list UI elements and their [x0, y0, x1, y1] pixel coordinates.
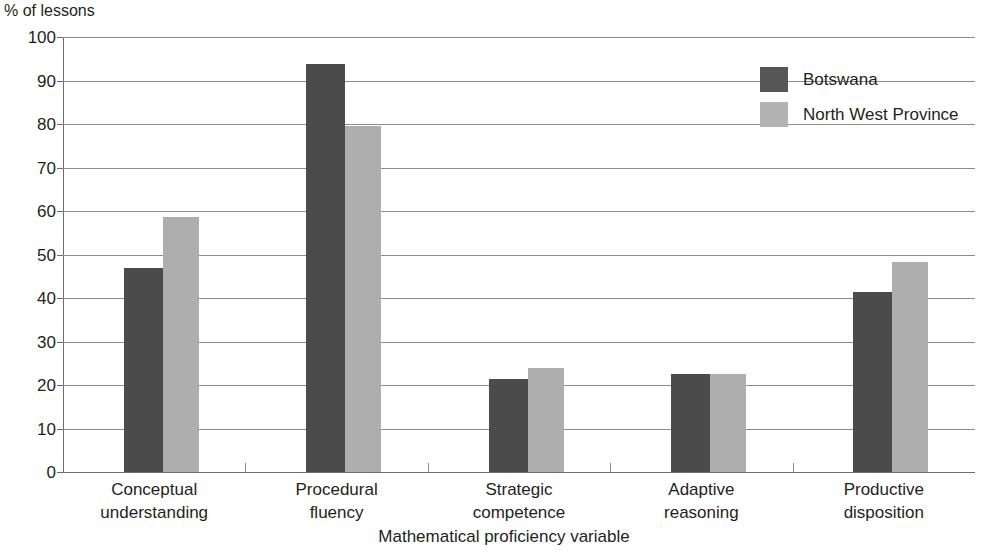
y-axis-tick-label: 60: [37, 203, 56, 220]
bar: [528, 368, 564, 472]
y-axis-tick: [57, 342, 63, 343]
x-axis-category-label: Strategiccompetence: [428, 478, 610, 524]
x-axis-category-label-line: fluency: [245, 501, 427, 524]
x-axis-category-label: Adaptivereasoning: [610, 478, 792, 524]
bar: [489, 379, 528, 472]
bar: [306, 64, 345, 472]
legend-item-label: North West Province: [803, 105, 959, 124]
x-axis-title: Mathematical proficiency variable: [0, 527, 984, 547]
bar: [124, 268, 163, 472]
bar: [892, 262, 928, 472]
legend-item: North West Province: [760, 97, 959, 132]
legend-color-swatch: [760, 102, 788, 127]
y-axis-tick: [57, 124, 63, 125]
y-axis-tick: [57, 211, 63, 212]
y-axis-tick-label: 0: [47, 464, 56, 481]
category-separator-tick: [428, 463, 429, 472]
category-separator-tick: [245, 463, 246, 472]
bar-chart: % of lessons 1009080706050403020100 Conc…: [0, 0, 984, 558]
gridline: [63, 342, 975, 343]
y-axis-tick: [57, 429, 63, 430]
y-axis-tick-label: 90: [37, 73, 56, 90]
x-axis-category-label-line: competence: [428, 501, 610, 524]
x-axis-category-label-line: Adaptive: [610, 478, 792, 501]
y-axis-tick: [57, 168, 63, 169]
x-axis-category-label: Conceptualunderstanding: [63, 478, 245, 524]
x-axis-category-label-line: Conceptual: [63, 478, 245, 501]
y-axis-tick-label: 80: [37, 116, 56, 133]
bar: [853, 292, 892, 472]
y-axis-tick-labels: 1009080706050403020100: [0, 37, 56, 473]
gridline: [63, 168, 975, 169]
y-axis-tick-label: 40: [37, 290, 56, 307]
y-axis-tick-label: 10: [37, 421, 56, 438]
y-axis-tick-label: 50: [37, 247, 56, 264]
x-axis-title-text: Mathematical proficiency variable: [378, 527, 629, 547]
x-axis-baseline: [63, 472, 975, 473]
x-axis-category-label-line: Procedural: [245, 478, 427, 501]
bar: [671, 374, 710, 472]
bar: [345, 126, 381, 472]
y-axis-tick: [57, 81, 63, 82]
bar: [163, 217, 199, 472]
y-axis-tick: [57, 37, 63, 38]
y-axis-tick: [57, 472, 63, 473]
y-axis-tick: [57, 255, 63, 256]
x-axis-category-label-line: reasoning: [610, 501, 792, 524]
gridline: [63, 211, 975, 212]
x-axis-category-label: Proceduralfluency: [245, 478, 427, 524]
legend-item: Botswana: [760, 62, 959, 97]
gridline: [63, 255, 975, 256]
y-axis-tick-label: 70: [37, 160, 56, 177]
chart-legend: BotswanaNorth West Province: [760, 62, 959, 132]
x-axis-category-label: Productivedisposition: [793, 478, 975, 524]
x-axis-category-labels: ConceptualunderstandingProceduralfluency…: [63, 478, 975, 526]
y-axis-tick-label: 30: [37, 334, 56, 351]
y-axis-tick: [57, 385, 63, 386]
bar: [710, 374, 746, 472]
y-axis-tick: [57, 298, 63, 299]
gridline: [63, 37, 975, 38]
x-axis-category-label-line: disposition: [793, 501, 975, 524]
category-separator-tick: [793, 463, 794, 472]
legend-color-swatch: [760, 67, 788, 92]
x-axis-category-label-line: Strategic: [428, 478, 610, 501]
x-axis-category-label-line: understanding: [63, 501, 245, 524]
category-separator-tick: [610, 463, 611, 472]
y-axis-tick-label: 100: [28, 29, 56, 46]
x-axis-category-label-line: Productive: [793, 478, 975, 501]
gridline: [63, 298, 975, 299]
y-axis-title: % of lessons: [4, 2, 95, 20]
legend-item-label: Botswana: [803, 70, 878, 89]
y-axis-tick-label: 20: [37, 377, 56, 394]
